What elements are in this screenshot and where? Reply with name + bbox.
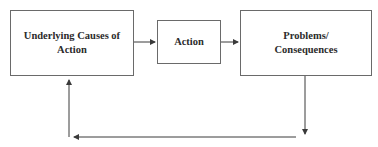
label-line: Action: [174, 35, 204, 49]
node-underlying-causes: Underlying Causes of Action: [10, 10, 134, 76]
label-line: Underlying Causes of: [24, 29, 120, 43]
node-action-label: Action: [174, 35, 204, 49]
node-action: Action: [157, 20, 221, 64]
label-line: Problems/: [274, 29, 337, 43]
node-problems-label: Problems/ Consequences: [274, 29, 337, 57]
node-problems-consequences: Problems/ Consequences: [240, 10, 372, 76]
label-line: Consequences: [274, 43, 337, 57]
label-line: Action: [24, 43, 120, 57]
node-underlying-causes-label: Underlying Causes of Action: [24, 29, 120, 57]
